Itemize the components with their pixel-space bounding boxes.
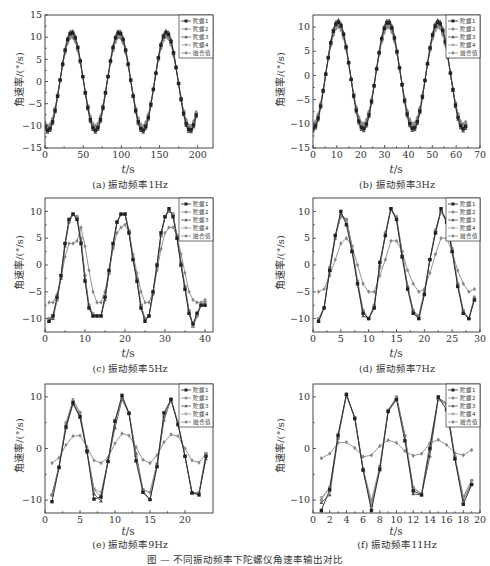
series-line (313, 22, 466, 128)
data-point-marker (320, 456, 323, 460)
data-point-marker (395, 398, 398, 401)
data-point-marker (332, 30, 335, 33)
data-point-marker (345, 223, 348, 226)
data-point-marker (423, 79, 426, 82)
x-tick-label: 2 (327, 514, 333, 525)
data-point-marker (121, 38, 124, 41)
data-point-marker (76, 46, 79, 49)
x-axis-label: t/s (376, 347, 416, 359)
data-point-marker (361, 468, 364, 471)
data-point-marker (174, 66, 177, 69)
data-point-marker (431, 33, 434, 36)
x-axis-label: t/s (376, 163, 416, 175)
data-point-marker (95, 314, 98, 317)
x-tick-label: 40 (199, 333, 211, 344)
data-point-marker (91, 290, 94, 294)
x-tick-label: 0 (310, 149, 316, 160)
data-point-marker (473, 298, 476, 301)
data-point-marker (456, 285, 459, 288)
data-point-marker (413, 126, 416, 129)
legend: 陀螺1陀螺2陀螺3陀螺4融合值 (179, 198, 213, 241)
x-tick-label: 6 (360, 514, 366, 525)
data-point-marker (319, 104, 322, 107)
x-tick-label: 100 (112, 149, 130, 160)
data-point-marker (195, 312, 198, 315)
x-axis-unit: /s (394, 163, 403, 175)
data-point-marker (56, 94, 59, 97)
legend-label: 陀螺1 (193, 200, 209, 208)
data-point-marker (417, 317, 420, 320)
data-point-marker (389, 207, 392, 210)
chart-panel-c: 010203040−10−50510陀螺1陀螺2陀螺3陀螺4融合值 角速率/(°… (0, 190, 245, 380)
data-point-marker (143, 320, 146, 323)
data-point-marker (87, 268, 90, 272)
data-point-marker (115, 220, 118, 223)
x-axis-label: t/s (108, 163, 148, 175)
data-point-marker (51, 314, 54, 317)
data-point-marker (67, 241, 70, 245)
legend: 陀螺1陀螺2陀螺3陀螺4融合值 (446, 15, 480, 58)
data-point-marker (462, 503, 465, 506)
legend-label: 融合值 (460, 418, 478, 426)
data-point-marker (131, 258, 134, 261)
y-axis-label: 角速率/(°/s) (11, 40, 26, 120)
data-point-marker (370, 100, 373, 103)
legend-label: 陀螺2 (460, 394, 476, 402)
legend-label: 融合值 (193, 418, 211, 426)
data-point-marker (362, 127, 365, 130)
data-point-marker (403, 99, 406, 102)
figure-caption: 图 — 不同振动频率下陀螺仪角速率输出对比 (0, 552, 490, 566)
data-point-marker (83, 244, 86, 248)
series-融合值 (50, 431, 207, 465)
data-point-marker (437, 395, 440, 398)
data-point-marker (434, 231, 437, 234)
legend: 陀螺1陀螺2陀螺3陀螺4融合值 (179, 15, 213, 58)
chart-svg-a: 050100150200−15−10−5051015陀螺1陀螺2陀螺3陀螺4融合… (0, 0, 245, 190)
chart-panel-d: 051015202530−10−50510陀螺1陀螺2陀螺3陀螺4融合值 角速率… (245, 190, 490, 380)
y-tick-label: −10 (22, 494, 42, 505)
x-axis-label: t/s (108, 525, 148, 537)
x-axis: 05101520 (42, 510, 191, 525)
y-tick-label: 0 (36, 443, 42, 454)
x-tick-label: 10 (390, 514, 402, 525)
data-point-marker (456, 268, 459, 272)
data-point-marker (147, 314, 150, 317)
data-point-marker (441, 29, 444, 32)
legend-label: 融合值 (460, 49, 478, 57)
data-point-marker (428, 447, 431, 450)
data-point-marker (418, 109, 421, 112)
data-point-marker (64, 425, 67, 428)
x-tick-label: 30 (159, 333, 171, 344)
series-line (45, 33, 196, 131)
data-point-marker (462, 312, 465, 315)
plot-area (43, 29, 198, 134)
data-point-marker (345, 393, 348, 396)
data-point-marker (470, 479, 473, 482)
legend-label: 陀螺4 (193, 224, 209, 232)
y-tick-label: 0 (304, 70, 310, 81)
data-point-marker (439, 207, 442, 210)
data-point-marker (84, 91, 87, 94)
y-tick-label: 0 (36, 259, 42, 270)
x-tick-label: 15 (390, 333, 402, 344)
data-point-marker (355, 109, 358, 112)
data-point-marker (384, 234, 387, 237)
data-point-marker (337, 21, 340, 24)
y-axis: −10010 (290, 391, 316, 505)
data-point-marker (155, 465, 158, 468)
data-point-marker (189, 128, 192, 131)
y-axis-label: 角速率/(°/s) (272, 223, 287, 303)
legend-label: 陀螺2 (193, 394, 209, 402)
x-tick-label: 30 (474, 333, 486, 344)
data-point-marker (400, 83, 403, 86)
data-point-marker (423, 293, 426, 296)
data-point-marker (365, 122, 368, 125)
data-point-marker (47, 300, 50, 304)
data-point-marker (155, 263, 158, 266)
data-point-marker (353, 417, 356, 420)
data-point-marker (428, 271, 431, 275)
data-point-marker (179, 263, 182, 266)
x-tick-label: 10 (331, 149, 343, 160)
data-point-marker (372, 84, 375, 87)
data-point-marker (147, 116, 150, 119)
